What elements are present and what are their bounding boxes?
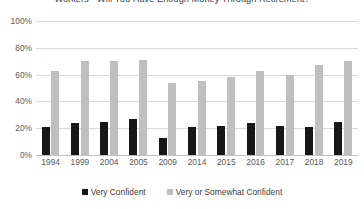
bar[interactable]: [198, 81, 206, 155]
y-axis-tick-label: 0%: [2, 151, 32, 159]
bar[interactable]: [188, 127, 196, 155]
y-axis: 0%20%40%60%80%100%: [0, 21, 32, 155]
bar[interactable]: [100, 122, 108, 156]
y-axis-tick-label: 40%: [2, 97, 32, 105]
bar-group: [182, 21, 211, 155]
bar-group: [36, 21, 65, 155]
x-axis-tick-label: 1999: [65, 158, 94, 167]
bar-group: [241, 21, 270, 155]
bar[interactable]: [276, 126, 284, 155]
bar[interactable]: [139, 60, 147, 155]
chart-legend: Very Confident Very or Somewhat Confiden…: [0, 188, 364, 196]
bar[interactable]: [247, 123, 255, 155]
legend-item-very-confident[interactable]: Very Confident: [82, 188, 146, 196]
chart-title: Workers - Will You Have Enough Money Thr…: [0, 0, 364, 4]
x-axis-tick-label: 2004: [95, 158, 124, 167]
bar[interactable]: [81, 61, 89, 155]
x-axis-tick-label: 2005: [124, 158, 153, 167]
x-axis-tick-label: 1994: [36, 158, 65, 167]
bar[interactable]: [334, 122, 342, 156]
bar-group: [65, 21, 94, 155]
chart-container: Workers - Will You Have Enough Money Thr…: [0, 0, 364, 209]
bar[interactable]: [286, 75, 294, 155]
bar-group: [124, 21, 153, 155]
plot-area: [36, 21, 358, 155]
bar[interactable]: [256, 71, 264, 155]
y-axis-tick-label: 100%: [2, 17, 32, 25]
x-axis-tick-label: 2015: [212, 158, 241, 167]
bar[interactable]: [42, 127, 50, 155]
y-axis-tick-label: 80%: [2, 44, 32, 52]
legend-label-very-confident: Very Confident: [91, 188, 146, 196]
bar[interactable]: [315, 65, 323, 155]
y-axis-tick-label: 20%: [2, 124, 32, 132]
legend-swatch-icon-very-confident: [82, 189, 88, 195]
bar[interactable]: [168, 83, 176, 155]
bar-group: [329, 21, 358, 155]
bar[interactable]: [129, 119, 137, 155]
bar[interactable]: [71, 123, 79, 155]
bar-group: [212, 21, 241, 155]
x-axis-tick-label: 2014: [182, 158, 211, 167]
bar-group: [153, 21, 182, 155]
bar[interactable]: [227, 77, 235, 155]
bar[interactable]: [159, 138, 167, 155]
x-axis-tick-label: 2009: [153, 158, 182, 167]
legend-item-very-or-somewhat-confident[interactable]: Very or Somewhat Confident: [167, 188, 283, 196]
bar-group: [299, 21, 328, 155]
bar-group: [270, 21, 299, 155]
bar[interactable]: [344, 61, 352, 155]
bar[interactable]: [217, 126, 225, 155]
x-axis-tick-label: 2019: [329, 158, 358, 167]
legend-label-very-or-somewhat-confident: Very or Somewhat Confident: [176, 188, 283, 196]
y-axis-tick-label: 60%: [2, 71, 32, 79]
x-axis-tick-label: 2017: [270, 158, 299, 167]
x-axis: 1994199920042005200920142015201620172018…: [36, 158, 358, 172]
x-axis-line: [36, 155, 358, 156]
bar[interactable]: [110, 61, 118, 155]
bar[interactable]: [305, 127, 313, 155]
x-axis-tick-label: 2016: [241, 158, 270, 167]
bar[interactable]: [51, 71, 59, 155]
bar-group: [95, 21, 124, 155]
legend-swatch-icon-very-or-somewhat-confident: [167, 189, 173, 195]
x-axis-tick-label: 2018: [299, 158, 328, 167]
